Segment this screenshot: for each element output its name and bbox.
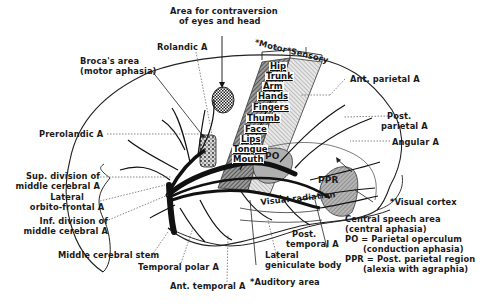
label-rolandic: Rolandic A <box>157 43 207 53</box>
legend-ppr-aphasia: (alexia with agraphia) <box>345 265 468 275</box>
label-broca: Broca's area (motor aphasia) <box>80 57 157 76</box>
label-ppr: PPR <box>318 176 338 186</box>
label-lateral-geniculate: Lateral geniculate body <box>265 251 342 270</box>
homunculus-hip: Hip <box>269 62 287 71</box>
label-po: PO <box>265 152 279 162</box>
label-post-temporal: Post. temporal A <box>286 230 339 249</box>
label-contraversion: Area for contraversion of eyes and head <box>170 7 278 26</box>
label-temporal-polar: Temporal polar A <box>138 263 219 273</box>
homunculus-arm: Arm <box>262 82 284 91</box>
label-post-parietal: Post. parietal A <box>381 112 428 131</box>
homunculus-mouth: Mouth <box>232 155 264 164</box>
label-auditory-area: *Auditory area <box>250 278 320 288</box>
homunculus-thumb: Thumb <box>246 114 281 123</box>
homunculus-trunk: Trunk <box>265 72 294 81</box>
label-ant-parietal: Ant. parietal A <box>350 75 420 85</box>
brain-diagram: Area for contraversion of eyes and head … <box>0 0 491 304</box>
label-angular: Angular A <box>392 138 439 148</box>
homunculus-tongue: Tongue <box>232 145 268 154</box>
label-lateral-orbitofrontal: Lateral orbito-frontal A <box>28 193 106 212</box>
homunculus-hands: Hands <box>257 92 289 101</box>
label-middle-cerebral-stem: Middle cerebral stem <box>58 251 159 261</box>
label-sup-division: Sup. division of middle cerebral A <box>14 172 100 191</box>
homunculus-face: Face <box>244 125 268 134</box>
label-ant-temporal: Ant. temporal A <box>170 282 246 292</box>
label-inf-division: Inf. division of middle cerebral A <box>22 217 108 236</box>
homunculus-fingers: Fingers <box>252 103 290 112</box>
label-visual-cortex: *Visual cortex <box>390 198 457 208</box>
homunculus-lips: Lips <box>240 135 261 144</box>
label-prerolandic: Prerolandic A <box>39 130 103 140</box>
contraversion-area <box>212 87 234 113</box>
